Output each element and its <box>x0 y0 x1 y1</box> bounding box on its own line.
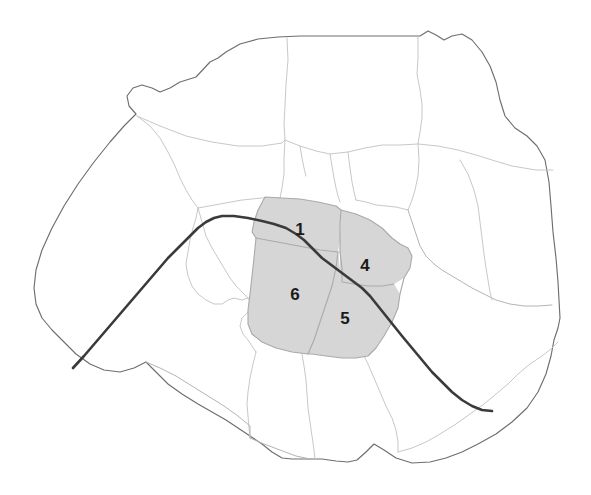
district-label-1: 1 <box>295 220 304 239</box>
district-label-6: 6 <box>290 285 299 304</box>
paris-arrondissements-map: Paris arrondissements map <box>0 0 591 495</box>
paris-map-container: Paris arrondissements map <box>0 0 591 495</box>
district-label-4: 4 <box>360 256 370 275</box>
district-label-5: 5 <box>340 309 349 328</box>
